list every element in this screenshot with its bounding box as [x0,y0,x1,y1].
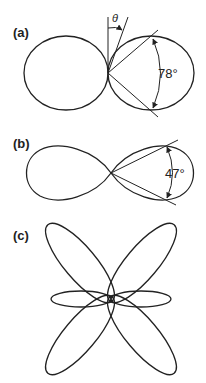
petal-right [111,291,171,307]
rose-pattern [36,214,187,383]
beamwidth-label-a: 78° [158,66,178,81]
panel-c-label: (c) [13,228,29,243]
left-lobe [27,146,112,200]
petal-left [51,291,111,307]
beamwidth-label-b: 47° [165,166,185,181]
theta-arc-arrow [108,27,122,30]
theta-label: θ [112,12,118,24]
panel-c: (c) [13,214,186,383]
left-lobe [24,36,108,110]
radiation-pattern-diagram: (a) θ 78° (b) 47° (c) [0,0,206,383]
right-lobe [108,36,194,110]
panel-a-label: (a) [13,25,29,40]
beam-edge-bottom [108,73,158,117]
panel-b-label: (b) [13,136,30,151]
panel-a: (a) θ 78° [13,12,194,117]
panel-b: (b) 47° [13,136,194,205]
